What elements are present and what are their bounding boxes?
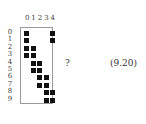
filled-cell [31,53,36,58]
filled-cell [24,46,29,51]
filled-cell [37,83,42,88]
binary-grid [20,27,53,104]
filled-cell [37,61,42,66]
filled-cell [31,61,36,66]
question-mark: ? [65,58,70,68]
filled-cell [50,90,55,95]
filled-cell [31,46,36,51]
filled-cell [37,68,42,73]
filled-cell [50,38,55,43]
filled-cell [37,75,42,80]
column-labels: 0 1 2 3 4 [24,14,56,22]
filled-cell [44,83,49,88]
filled-cell [50,31,55,36]
row-label: 9 [6,96,14,103]
row-labels: 0 1 2 3 4 5 6 7 8 9 [6,29,14,103]
filled-cell [44,75,49,80]
filled-cell [44,98,49,103]
filled-cell [50,98,55,103]
filled-cell [44,90,49,95]
filled-cell [24,53,29,58]
filled-cell [31,68,36,73]
col-label: 4 [50,14,56,22]
equation-number: (9.20) [110,58,137,68]
filled-cell [24,31,29,36]
filled-cell [24,38,29,43]
